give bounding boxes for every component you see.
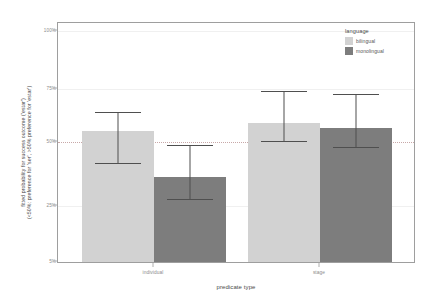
errorbar-individual-bilingual (82, 112, 154, 164)
bar-stage-bilingual[interactable] (248, 123, 320, 263)
x-tick-label-individual: individual (142, 270, 163, 275)
errorbar-stem (190, 145, 191, 200)
bar-stage-monolingual[interactable] (320, 128, 392, 263)
legend-item-bilingual[interactable]: bilingual (345, 37, 425, 45)
x-axis-tick-individual (153, 263, 154, 267)
errorbar-cap-bottom (167, 199, 213, 200)
errorbar-stem (356, 94, 357, 148)
errorbar-individual-monolingual (154, 145, 226, 200)
legend: language bilingual monolingual (345, 28, 425, 57)
x-axis-tick-stage (319, 263, 320, 267)
errorbar-stem (284, 91, 285, 142)
errorbar-cap-top (95, 112, 141, 113)
errorbar-stem (118, 112, 119, 164)
errorbar-stage-monolingual (320, 94, 392, 148)
legend-swatch-bilingual (345, 37, 353, 45)
legend-label-monolingual: monolingual (356, 48, 384, 54)
errorbar-cap-top (167, 145, 213, 146)
errorbar-cap-top (261, 91, 307, 92)
x-axis-title: predicate type (57, 284, 415, 290)
chart-root: fitted probability for success outcome (… (0, 0, 432, 305)
legend-title: language (345, 28, 425, 34)
y-axis-labels: 100% 75% 50% 25% 5% (34, 0, 56, 305)
legend-swatch-monolingual (345, 47, 353, 55)
errorbar-stage-bilingual (248, 91, 320, 142)
x-tick-label-stage: stage (313, 270, 325, 275)
errorbar-cap-bottom (95, 163, 141, 164)
legend-label-bilingual: bilingual (356, 38, 375, 44)
legend-item-monolingual[interactable]: monolingual (345, 47, 425, 55)
plot-panel (57, 22, 415, 263)
errorbar-cap-top (333, 94, 379, 95)
gridline-75 (58, 89, 414, 90)
errorbar-cap-bottom (261, 141, 307, 142)
gridline-5 (58, 262, 414, 263)
y-axis-title-line2: (<50%: preference for 'ser', >50% prefer… (27, 86, 33, 219)
errorbar-cap-bottom (333, 147, 379, 148)
